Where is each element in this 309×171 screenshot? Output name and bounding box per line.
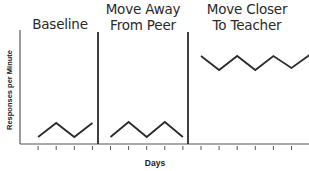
data-line	[111, 122, 183, 137]
data-series	[38, 55, 309, 137]
data-line	[201, 55, 309, 70]
data-line	[38, 123, 92, 137]
plot-area	[0, 0, 309, 171]
axes	[20, 30, 309, 150]
